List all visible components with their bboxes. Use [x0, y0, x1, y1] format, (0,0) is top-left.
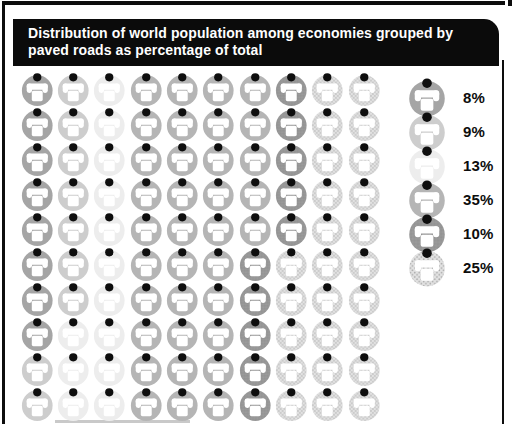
- population-unit-icon: [309, 247, 345, 282]
- population-unit-icon: [128, 72, 164, 107]
- population-unit-icon: [309, 142, 345, 177]
- population-unit-icon: [273, 282, 309, 317]
- waffle-grid: [19, 72, 382, 422]
- population-unit-icon: [164, 72, 200, 107]
- population-unit-icon: [237, 107, 273, 142]
- population-unit-icon: [92, 212, 128, 247]
- population-unit-icon: [164, 282, 200, 317]
- population-unit-icon: [200, 107, 236, 142]
- population-unit-icon: [92, 247, 128, 282]
- pictogram-chart: Distribution of world population among e…: [0, 0, 512, 424]
- legend-label: 25%: [463, 259, 494, 276]
- population-unit-icon: [92, 142, 128, 177]
- population-unit-icon: [200, 177, 236, 212]
- population-unit-icon: [200, 387, 236, 422]
- population-unit-icon: [273, 247, 309, 282]
- population-unit-icon: [55, 142, 91, 177]
- legend-label: 8%: [463, 89, 485, 106]
- legend-label: 9%: [463, 123, 485, 140]
- population-unit-icon: [55, 212, 91, 247]
- legend-entry: 8%: [407, 80, 507, 114]
- population-unit-icon: [200, 72, 236, 107]
- population-unit-icon: [128, 177, 164, 212]
- population-unit-icon: [273, 212, 309, 247]
- population-unit-icon: [346, 352, 382, 387]
- population-unit-icon: [200, 282, 236, 317]
- population-unit-icon: [346, 72, 382, 107]
- population-unit-icon: [346, 282, 382, 317]
- legend-entry: 25%: [407, 250, 507, 284]
- population-unit-icon: [128, 387, 164, 422]
- legend-telephone-icon: [407, 247, 447, 287]
- population-unit-icon: [346, 177, 382, 212]
- population-unit-icon: [19, 387, 55, 422]
- population-unit-icon: [346, 142, 382, 177]
- population-unit-icon: [200, 247, 236, 282]
- population-unit-icon: [164, 212, 200, 247]
- population-unit-icon: [92, 107, 128, 142]
- population-unit-icon: [273, 317, 309, 352]
- population-unit-icon: [273, 387, 309, 422]
- population-unit-icon: [273, 142, 309, 177]
- population-unit-icon: [237, 387, 273, 422]
- population-unit-icon: [55, 72, 91, 107]
- population-unit-icon: [92, 352, 128, 387]
- population-unit-icon: [237, 72, 273, 107]
- population-unit-icon: [164, 177, 200, 212]
- chart-title: Distribution of world population among e…: [28, 25, 464, 59]
- population-unit-icon: [55, 317, 91, 352]
- population-unit-icon: [200, 212, 236, 247]
- population-unit-icon: [237, 247, 273, 282]
- frame-left-rule: [2, 1, 5, 424]
- chart-header-bar: Distribution of world population among e…: [13, 19, 499, 66]
- population-unit-icon: [128, 247, 164, 282]
- population-unit-icon: [164, 317, 200, 352]
- legend-entry: 13%: [407, 148, 507, 182]
- population-unit-icon: [128, 317, 164, 352]
- population-unit-icon: [128, 212, 164, 247]
- population-unit-icon: [237, 212, 273, 247]
- population-unit-icon: [164, 107, 200, 142]
- population-unit-icon: [164, 247, 200, 282]
- population-unit-icon: [309, 352, 345, 387]
- population-unit-icon: [273, 352, 309, 387]
- population-unit-icon: [55, 247, 91, 282]
- population-unit-icon: [55, 107, 91, 142]
- population-unit-icon: [309, 72, 345, 107]
- population-unit-icon: [309, 282, 345, 317]
- population-unit-icon: [19, 72, 55, 107]
- population-unit-icon: [309, 107, 345, 142]
- population-unit-icon: [309, 212, 345, 247]
- legend-entry: 9%: [407, 114, 507, 148]
- population-unit-icon: [237, 282, 273, 317]
- population-unit-icon: [92, 387, 128, 422]
- population-unit-icon: [237, 317, 273, 352]
- population-unit-icon: [200, 142, 236, 177]
- population-unit-icon: [55, 352, 91, 387]
- population-unit-icon: [19, 317, 55, 352]
- population-unit-icon: [200, 352, 236, 387]
- legend-label: 35%: [463, 191, 494, 208]
- population-unit-icon: [128, 282, 164, 317]
- population-unit-icon: [92, 317, 128, 352]
- population-unit-icon: [200, 317, 236, 352]
- legend-label: 10%: [463, 225, 494, 242]
- population-unit-icon: [19, 142, 55, 177]
- population-unit-icon: [128, 352, 164, 387]
- population-unit-icon: [346, 387, 382, 422]
- frame-corner-chip: [508, 0, 512, 6]
- frame-top-rule: [2, 1, 505, 5]
- population-unit-icon: [346, 247, 382, 282]
- population-unit-icon: [19, 212, 55, 247]
- population-unit-icon: [273, 107, 309, 142]
- population-unit-icon: [19, 352, 55, 387]
- legend-entry: 35%: [407, 182, 507, 216]
- population-unit-icon: [164, 352, 200, 387]
- population-unit-icon: [19, 177, 55, 212]
- population-unit-icon: [309, 317, 345, 352]
- population-unit-icon: [237, 352, 273, 387]
- population-unit-icon: [237, 177, 273, 212]
- population-unit-icon: [55, 387, 91, 422]
- population-unit-icon: [164, 142, 200, 177]
- population-unit-icon: [309, 387, 345, 422]
